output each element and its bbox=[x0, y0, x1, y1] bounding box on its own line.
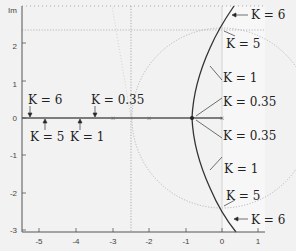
k-label-lower-k5: K = 5 bbox=[226, 189, 260, 203]
x-tick-label: 0 bbox=[220, 237, 225, 246]
x-tick-label: -2 bbox=[145, 237, 153, 246]
k-label-lower-k6: K = 6 bbox=[251, 213, 285, 227]
pole-marker: × bbox=[220, 114, 225, 123]
k-label-upper-k5: K = 5 bbox=[226, 37, 260, 51]
x-tick-label: -1 bbox=[182, 237, 190, 246]
x-tick-label: 1 bbox=[256, 237, 261, 246]
k-label-upper-k1: K = 1 bbox=[223, 71, 257, 85]
k-label-lower-k035: K = 0.35 bbox=[223, 129, 276, 143]
k-label-lower-k1: K = 1 bbox=[224, 162, 258, 176]
y-tick-label: -3 bbox=[10, 226, 18, 235]
k-label-real-k1: K = 1 bbox=[70, 130, 104, 144]
pole-marker: × bbox=[147, 114, 152, 123]
y-tick-label: 2 bbox=[13, 42, 18, 51]
breakaway-point bbox=[190, 116, 194, 120]
root-locus-chart: × × × -5 -4 -3 -2 -1 0 1 Im 2 1 0 -1 -2 … bbox=[0, 0, 296, 251]
k-label-upper-k035: K = 0.35 bbox=[223, 95, 276, 109]
k-label-real-k6: K = 6 bbox=[28, 93, 62, 107]
k-label-upper-k6: K = 6 bbox=[251, 8, 285, 22]
y-tick-label: -1 bbox=[10, 151, 18, 160]
x-tick-label: -4 bbox=[72, 237, 80, 246]
y-tick-label: 1 bbox=[13, 80, 18, 89]
pole-marker: × bbox=[111, 114, 116, 123]
y-axis-label: Im bbox=[8, 6, 17, 15]
y-tick-label: 0 bbox=[13, 114, 18, 123]
k-label-real-k035: K = 0.35 bbox=[91, 93, 144, 107]
y-tick-label: -2 bbox=[10, 189, 18, 198]
x-tick-label: -3 bbox=[109, 237, 117, 246]
x-tick-label: -5 bbox=[35, 237, 43, 246]
k-label-real-k5: K = 5 bbox=[30, 130, 64, 144]
